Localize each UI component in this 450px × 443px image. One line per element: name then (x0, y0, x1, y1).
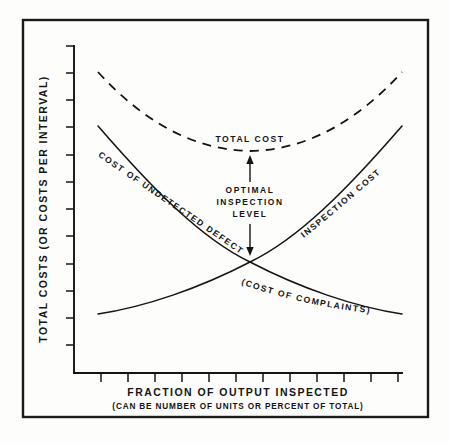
cost-inspection-chart: TOTAL COST COST OF UNDETECTED DEFECTS IN… (0, 0, 450, 443)
y-axis-ticks (66, 46, 74, 345)
figure-frame (23, 20, 428, 417)
annot-line-2: INSPECTION (216, 197, 283, 207)
x-axis-subtitle: (CAN BE NUMBER OF UNITS OR PERCENT OF TO… (112, 402, 363, 411)
label-total-cost: TOTAL COST (216, 134, 285, 144)
x-axis-ticks (101, 373, 398, 382)
x-axis-title: FRACTION OF OUTPUT INSPECTED (127, 386, 348, 398)
y-axis-title: TOTAL COSTS (OR COSTS PER INTERVAL) (37, 75, 49, 342)
annot-line-1: OPTIMAL (226, 185, 275, 195)
label-cost-of-complaints: (COST OF COMPLAINTS) (240, 276, 371, 315)
label-inspection-costs: INSPECTION COSTS (0, 0, 383, 240)
figure-page: TOTAL COST COST OF UNDETECTED DEFECTS IN… (0, 0, 450, 443)
annot-line-3: LEVEL (233, 209, 268, 219)
arrow-up-head-icon (246, 155, 253, 164)
arrow-down-head-icon (246, 247, 253, 256)
